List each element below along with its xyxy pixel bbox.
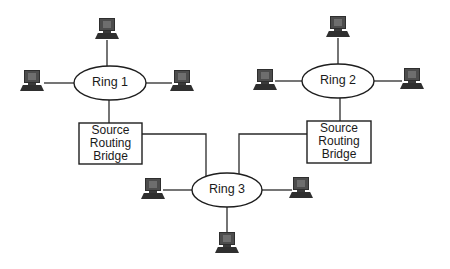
ring2-label: Ring 2 [308, 74, 368, 87]
bridge2-line3: Bridge [307, 148, 371, 161]
link-bridge2-ring3 [239, 134, 307, 174]
computer-icon [326, 16, 350, 38]
ring3-label: Ring 3 [197, 183, 257, 196]
computer-icon [141, 178, 165, 200]
bridge1-label: Source Routing Bridge [79, 124, 142, 163]
bridge1-line3: Bridge [79, 150, 142, 163]
computer-icon [400, 68, 424, 90]
ring1-label: Ring 1 [80, 76, 140, 89]
bridge2-label: Source Routing Bridge [307, 122, 371, 161]
computer-icon [215, 232, 239, 254]
computer-icon [253, 69, 277, 91]
computer-icon [20, 70, 44, 92]
computer-icon [95, 18, 119, 40]
network-diagram [0, 0, 450, 269]
link-bridge1-ring3 [142, 134, 206, 176]
computer-icon [170, 70, 194, 92]
computer-icon [289, 177, 313, 199]
